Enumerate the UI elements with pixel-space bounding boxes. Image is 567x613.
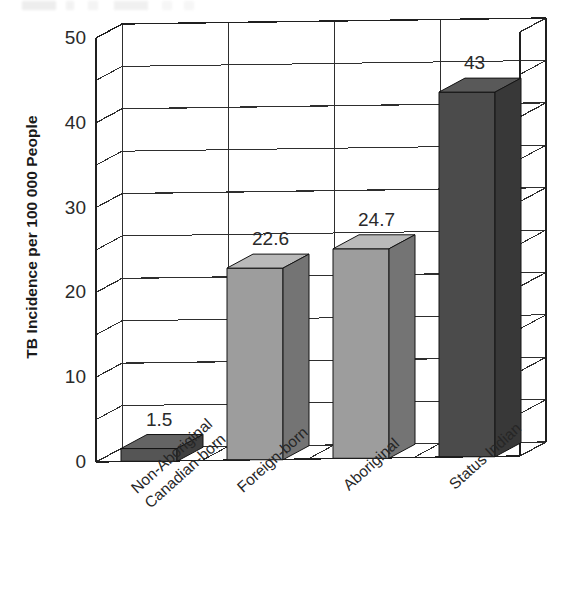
bar-value-label: 43	[464, 52, 485, 74]
bar-value-label: 1.5	[146, 409, 172, 431]
bar-value-label: 22.6	[252, 228, 289, 250]
tb-incidence-bar-chart: TB Incidence per 100 000 People 50403020…	[0, 0, 567, 613]
bars-group	[121, 78, 521, 461]
plot-area	[0, 0, 567, 613]
bar-value-label: 24.7	[358, 209, 395, 231]
